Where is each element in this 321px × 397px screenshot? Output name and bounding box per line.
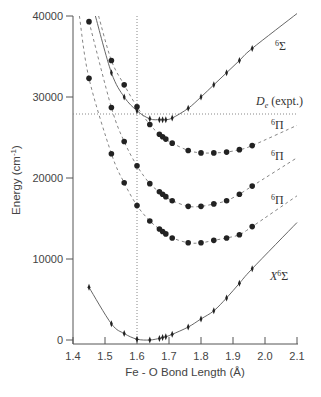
data-point <box>238 280 241 287</box>
data-point <box>185 204 191 210</box>
x-tick-label: 1.8 <box>193 350 208 362</box>
x-tick-label: 1.5 <box>97 350 112 362</box>
data-point <box>169 198 175 204</box>
x-tick-label: 1.9 <box>225 350 240 362</box>
data-point <box>148 115 151 122</box>
de-expt-label: De (expt.) <box>255 94 303 110</box>
data-point <box>171 115 174 122</box>
axes <box>73 16 298 344</box>
potential-energy-chart: 1.41.51.61.71.81.92.02.1 010000200003000… <box>0 0 321 397</box>
data-point <box>109 105 115 111</box>
data-point <box>224 198 230 204</box>
x-tick-label: 2.0 <box>257 350 272 362</box>
data-point <box>164 333 167 340</box>
data-point <box>211 150 217 156</box>
data-point <box>249 143 255 149</box>
curve-4 <box>89 223 297 341</box>
x-tick-label: 1.4 <box>65 350 80 362</box>
y-tick-label: 30000 <box>32 91 63 103</box>
data-point <box>147 122 153 128</box>
data-point <box>238 57 241 64</box>
data-point <box>237 147 243 153</box>
data-point <box>86 76 92 82</box>
data-point <box>86 19 92 25</box>
data-point <box>148 337 151 344</box>
data-point <box>212 81 215 88</box>
data-point <box>200 315 203 322</box>
data-point <box>169 140 175 146</box>
data-point <box>163 136 169 142</box>
data-point <box>187 105 190 112</box>
data-point <box>237 191 243 197</box>
data-point <box>109 151 115 157</box>
data-point <box>123 330 126 337</box>
y-tick-label: 10000 <box>32 253 63 265</box>
pi6-lower-label: 6Π <box>271 193 284 207</box>
x-ticks: 1.41.51.61.71.81.92.02.1 <box>65 337 304 362</box>
data-point <box>147 181 153 187</box>
curve-3 <box>79 16 297 243</box>
data-point <box>164 116 167 123</box>
data-point <box>161 334 164 341</box>
data-point <box>121 82 127 88</box>
data-point <box>171 331 174 338</box>
x-tick-label: 1.6 <box>129 350 144 362</box>
data-point <box>212 307 215 314</box>
data-point <box>134 163 140 169</box>
y-tick-label: 20000 <box>32 172 63 184</box>
data-point <box>211 201 217 207</box>
data-point <box>121 139 127 145</box>
data-point <box>224 149 230 155</box>
data-point <box>200 94 203 101</box>
x6sigma-state-label: X6Σ <box>269 269 288 283</box>
pi6-middle-label: 6Π <box>271 149 284 163</box>
data-point <box>225 69 228 76</box>
data-point <box>147 218 153 224</box>
pi6-upper-label: 6Π <box>271 118 284 132</box>
data-point <box>136 336 139 343</box>
data-point <box>251 45 254 52</box>
x-axis-label: Fe - O Bond Length (Å) <box>125 366 245 378</box>
data-point <box>198 240 204 246</box>
sigma6-state-label: 6Σ <box>275 39 286 53</box>
x-tick-label: 2.1 <box>289 350 304 362</box>
data-point <box>185 148 191 154</box>
data-point <box>251 265 254 272</box>
data-point <box>187 324 190 331</box>
data-point <box>169 235 175 241</box>
data-point <box>163 231 169 237</box>
data-point <box>121 180 127 186</box>
data-point <box>224 235 230 241</box>
y-ticks: 010000200003000040000 <box>32 10 73 346</box>
data-point <box>211 238 217 244</box>
data-point <box>237 232 243 238</box>
data-point <box>161 116 164 123</box>
data-point <box>198 150 204 156</box>
data-point <box>123 94 126 101</box>
data-point <box>198 204 204 210</box>
data-point <box>163 194 169 200</box>
y-axis-label: Energy (cm-1) <box>9 145 22 215</box>
data-point <box>134 104 140 110</box>
y-tick-label: 0 <box>57 334 63 346</box>
data-point <box>134 203 140 209</box>
data-point <box>249 224 255 230</box>
data-point <box>249 183 255 189</box>
y-tick-label: 40000 <box>32 10 63 22</box>
data-point <box>110 320 113 327</box>
data-point <box>158 116 161 123</box>
data-point <box>158 335 161 342</box>
data-point <box>185 240 191 246</box>
data-point <box>225 294 228 301</box>
data-point <box>109 58 115 64</box>
x-tick-label: 1.7 <box>161 350 176 362</box>
